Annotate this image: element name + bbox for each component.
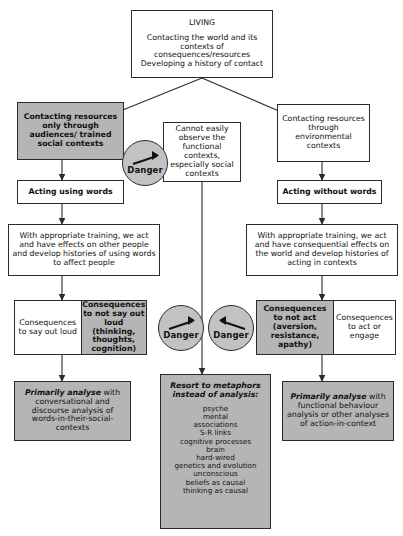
split-left-consequences: Consequences to say out loud Consequence… (14, 300, 147, 355)
metaphor-item: thinking as causal (183, 487, 248, 495)
box-acting-without-words: Acting without words (277, 180, 382, 204)
box-resort-to-metaphors: Resort to metaphors instead of analysis:… (160, 374, 271, 529)
danger-circle-words-to-metaphors: Danger (158, 305, 204, 351)
metaphors-title-line2: instead of analysis: (170, 391, 260, 400)
living-line2: contexts of consequences/resources (135, 43, 269, 61)
box-right-training: With appropriate training, we act and ha… (246, 224, 398, 276)
box-contacting-environmental: Contacting resources through environment… (277, 104, 370, 162)
right-analysis-emph: Primarily analyse (290, 392, 366, 401)
split-right-consequences: Consequences to not act (aversion, resis… (256, 300, 396, 355)
box-living: LIVING Contacting the world and its cont… (131, 10, 273, 78)
box-left-training: With appropriate training, we act and ha… (8, 224, 160, 276)
danger-arrow-left-icon (209, 306, 255, 352)
danger-circle-left-branch: Danger (122, 140, 168, 186)
box-cannot-observe: Cannot easily observe the functional con… (163, 122, 241, 182)
living-title: LIVING (189, 19, 215, 28)
diagram-canvas: LIVING Contacting the world and its cont… (0, 0, 403, 536)
cell-consequences-act-or-engage: Consequences to act or engage (333, 301, 395, 354)
box-left-analysis: Primarily analyse with conversational an… (14, 381, 131, 441)
cell-consequences-not-act: Consequences to not act (aversion, resis… (257, 301, 333, 354)
left-analysis-emph: Primarily analyse (25, 388, 101, 397)
box-contacting-through-audiences: Contacting resources only through audien… (17, 102, 124, 160)
cell-consequences-say-out-loud: Consequences to say out loud (15, 301, 81, 354)
cell-consequences-not-say-out-loud: Consequences to not say out loud (thinki… (81, 301, 147, 354)
danger-circle-action-to-metaphors: Danger (208, 305, 254, 351)
metaphors-heading: Resort to metaphors instead of analysis: (170, 382, 260, 400)
living-line3: Developing a history of contact (141, 60, 263, 69)
box-acting-using-words: Acting using words (17, 180, 124, 204)
danger-arrow-right-icon (159, 306, 205, 352)
box-right-analysis: Primarily analyse with functional behavi… (282, 381, 394, 441)
danger-arrow-right-icon (123, 141, 169, 187)
